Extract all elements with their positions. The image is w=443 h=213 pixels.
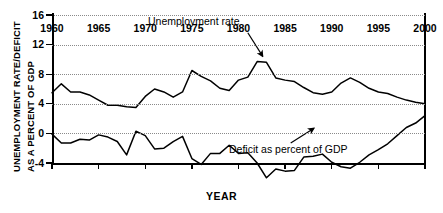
x-tick-1990 bbox=[331, 163, 332, 169]
gridline-y-8 bbox=[52, 74, 425, 75]
y-tick-label: 0 bbox=[16, 128, 44, 139]
y-tick-4 bbox=[46, 103, 53, 104]
y-tick-label: 12 bbox=[16, 39, 44, 50]
annotation-deficit-percent-gdp: Deficit as percent of GDP bbox=[229, 144, 347, 155]
gridline-y-0 bbox=[52, 133, 425, 134]
plot-area: -404812161960196519701975198019851990199… bbox=[52, 15, 425, 163]
gridline-y-4 bbox=[52, 104, 425, 105]
x-tick-label: 2000 bbox=[405, 23, 443, 34]
x-tick-1975 bbox=[191, 163, 192, 169]
y-tick-0 bbox=[46, 133, 53, 134]
x-tick-1970 bbox=[145, 163, 146, 169]
x-tick-label: 1990 bbox=[312, 23, 352, 34]
annotation-unemployment-rate: Unemployment rate bbox=[148, 16, 240, 27]
x-tick-label: 1965 bbox=[79, 23, 119, 34]
x-tick-label: 1960 bbox=[32, 23, 72, 34]
x-tick-1980 bbox=[238, 163, 239, 169]
y-tick-label: 4 bbox=[16, 98, 44, 109]
x-tick-1965 bbox=[98, 163, 99, 169]
y-tick-8 bbox=[46, 74, 53, 75]
x-tick-1995 bbox=[378, 163, 379, 169]
x-tick-1985 bbox=[284, 163, 285, 169]
y-tick-12 bbox=[46, 44, 53, 45]
arrow-deficit-percent-gdp bbox=[291, 128, 314, 143]
x-tick-2000 bbox=[424, 163, 425, 169]
x-tick-1960 bbox=[51, 163, 52, 169]
x-axis-title: YEAR bbox=[0, 190, 443, 202]
y-tick-16 bbox=[46, 14, 53, 15]
y-tick-label: -4 bbox=[16, 158, 44, 169]
y-tick-label: 8 bbox=[16, 69, 44, 80]
x-tick-label: 1995 bbox=[358, 23, 398, 34]
gridline-y-12 bbox=[52, 45, 425, 46]
annotation-arrows bbox=[52, 15, 425, 163]
x-tick-label: 1985 bbox=[265, 23, 305, 34]
y-tick-label: 16 bbox=[16, 10, 44, 21]
chart-figure: UNEMPLOYMENT RATE/DEFICIT AS A PERCENT O… bbox=[0, 0, 443, 213]
